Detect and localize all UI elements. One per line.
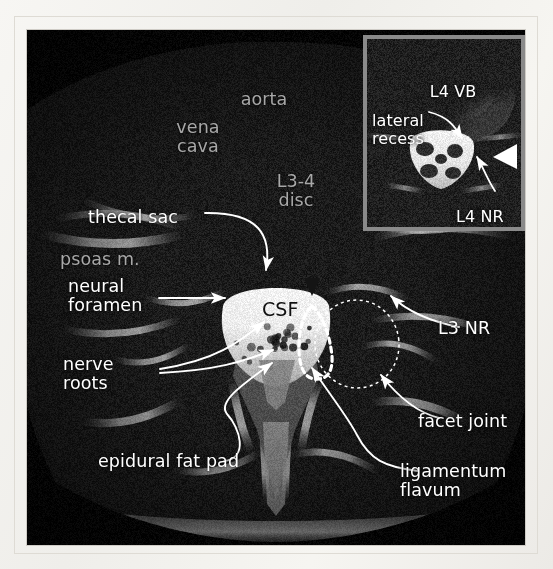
page-background: aorta vena cava L3-4 disc thecal sac pso… [0, 0, 553, 569]
mri-figure-plate: aorta vena cava L3-4 disc thecal sac pso… [27, 30, 525, 545]
inset-mri-image [367, 39, 521, 227]
inset-panel [363, 35, 525, 231]
